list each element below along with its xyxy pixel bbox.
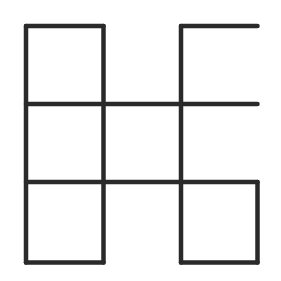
background bbox=[0, 0, 281, 281]
line-figure-diagram bbox=[0, 0, 281, 281]
